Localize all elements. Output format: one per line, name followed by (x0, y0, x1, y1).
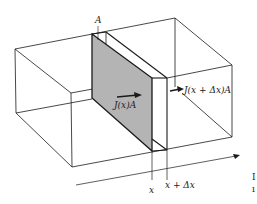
flux-out-label: J(x + Δx)A (182, 85, 232, 95)
x-axis-arrow (76, 154, 240, 185)
flux-out-arrow-icon (170, 86, 184, 92)
margin-glyph-2: ı (252, 184, 255, 194)
flux-in-label: J(x)A (112, 100, 137, 110)
x-label: x (149, 185, 154, 195)
slab-face-x (92, 34, 152, 151)
x-plus-dx-label: x + Δx (165, 180, 195, 190)
flux-diagram: A J(x)A J(x + Δx)A x x + Δx I ı (0, 0, 257, 204)
margin-glyph-1: I (252, 172, 256, 182)
position-guides (152, 150, 167, 180)
area-label: A (94, 15, 102, 25)
